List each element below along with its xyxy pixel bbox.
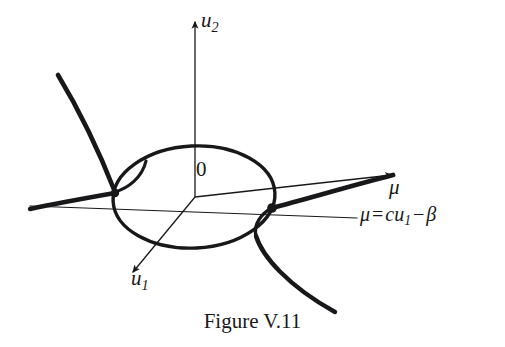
equation-variable-base: u	[394, 203, 404, 225]
equation-variable-subscript: 1	[404, 213, 411, 228]
bifurcation-diagram-svg	[0, 0, 505, 347]
figure-caption: Figure V.11	[0, 309, 505, 334]
figure-v11-container: u2 u1 μ 0 μ=cu1−β Figure V.11	[0, 0, 505, 347]
u1-label-subscript: 1	[142, 277, 149, 293]
equation-coefficient: c	[385, 203, 394, 225]
u2-label-base: u	[201, 8, 212, 32]
origin-label: 0	[196, 159, 207, 180]
constraint-line-mu-cu1-beta	[30, 206, 357, 218]
mu-axis-line	[195, 175, 392, 197]
equation-lhs: μ	[360, 203, 370, 225]
equation-rhs: β	[426, 203, 436, 225]
bifurcation-branches-group	[30, 75, 393, 312]
constraint-equation-label: μ=cu1−β	[360, 204, 436, 228]
left-intersection-node	[111, 189, 119, 197]
u1-axis-line	[133, 197, 195, 272]
lower-right-branch	[256, 236, 335, 312]
equilibrium-ellipse-group	[110, 142, 277, 252]
equation-equals: =	[370, 203, 385, 225]
u1-axis-label: u1	[131, 268, 149, 292]
u2-label-subscript: 2	[212, 19, 219, 35]
mu-axis-label: μ	[389, 177, 400, 198]
equilibrium-ellipse	[110, 142, 277, 252]
equation-minus: −	[411, 203, 426, 225]
constraint-line-group	[30, 206, 357, 218]
lower-left-branch	[30, 193, 115, 209]
upper-left-branch	[58, 75, 115, 192]
right-intersection-node	[267, 203, 277, 213]
u1-label-base: u	[131, 266, 142, 290]
u2-axis-label: u2	[201, 10, 219, 34]
